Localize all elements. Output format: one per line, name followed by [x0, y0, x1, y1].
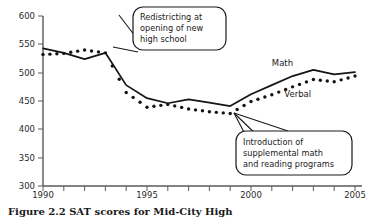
annotation-supplemental-line-2: supplemental math: [243, 148, 323, 158]
annotation-supplemental-programs: Introduction of supplemental math and re…: [234, 113, 352, 175]
annotation-supplemental-line-3: and reading programs: [243, 159, 334, 169]
chart-figure: 600 550 500 450 400 350 300 1990 1995 20…: [0, 0, 372, 220]
annotation-redistricting: Redistricting at opening of new high sch…: [113, 7, 226, 52]
y-tick-450: 450: [19, 96, 35, 106]
annotation-supplemental-line-1: Introduction of: [243, 137, 304, 147]
y-tick-600: 600: [19, 11, 35, 21]
figure-caption: Figure 2.2 SAT scores for Mid-City High: [8, 206, 364, 217]
x-axis: 1990 1995 2000 2005: [32, 186, 366, 200]
x-minor-ticks: [43, 186, 355, 191]
series-label-math: Math: [272, 58, 293, 68]
x-tick-2005: 2005: [344, 190, 366, 200]
y-axis: 600 550 500 450 400 350 300: [19, 11, 43, 191]
series-label-verbal: Verbal: [284, 89, 311, 99]
x-tick-1990: 1990: [32, 190, 54, 200]
annotation-redistricting-line-1: Redistricting at: [140, 12, 203, 22]
y-tick-550: 550: [19, 39, 35, 49]
y-tick-400: 400: [19, 124, 35, 134]
x-tick-1995: 1995: [136, 190, 158, 200]
x-tick-2000: 2000: [240, 190, 262, 200]
annotation-redistricting-line-2: opening of new: [140, 23, 203, 33]
y-tick-350: 350: [19, 153, 35, 163]
y-tick-500: 500: [19, 68, 35, 78]
chart-plot-area: 600 550 500 450 400 350 300 1990 1995 20…: [0, 0, 372, 220]
annotation-redistricting-line-3: high school: [140, 34, 187, 44]
